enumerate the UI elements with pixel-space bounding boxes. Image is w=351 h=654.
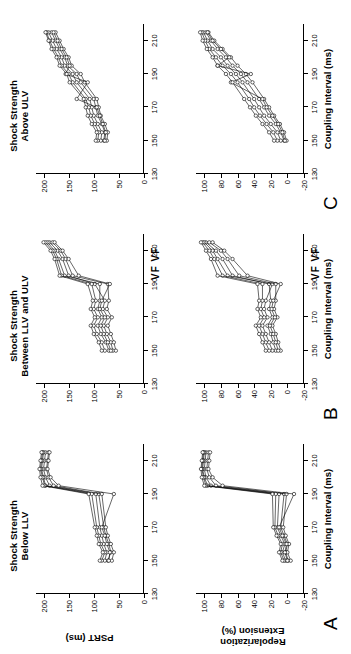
data-point-marker (208, 459, 211, 462)
data-point-marker (283, 551, 286, 554)
data-point-marker (259, 316, 262, 319)
panel-b-title-line2: Between LLV and ULV (19, 222, 30, 430)
data-point-marker (107, 559, 110, 562)
data-point-marker (267, 114, 270, 117)
data-point-marker (77, 274, 80, 277)
x-tick (304, 383, 308, 384)
y-tick (304, 384, 305, 388)
y-tick-label: 40 (250, 390, 259, 398)
y-tick (44, 174, 45, 178)
y-tick-label: 0 (140, 180, 149, 184)
y-tick-label: 0 (283, 180, 292, 184)
y-tick-label: 200 (39, 390, 48, 403)
y-tick-label: 50 (114, 600, 123, 608)
data-point-marker (107, 299, 110, 302)
panel-c-title-line2: Above ULV (19, 12, 30, 220)
y-tick (254, 594, 255, 598)
x-tick-label: 190 (310, 68, 319, 81)
x-tick (144, 350, 148, 351)
x-tick (144, 560, 148, 561)
data-point-marker (58, 64, 61, 67)
data-point-marker (104, 131, 107, 134)
data-point-marker (56, 39, 59, 42)
plot-a-bottom: -20020406080100130150170190210 (196, 444, 304, 594)
y-tick (238, 384, 239, 388)
panel-a-title-line2: Below LLV (19, 432, 30, 640)
data-point-marker (272, 139, 275, 142)
y-tick-label: 0 (140, 390, 149, 394)
data-point-marker (265, 106, 268, 109)
data-point-marker (264, 299, 267, 302)
data-point-marker (283, 139, 286, 142)
data-point-marker (249, 72, 252, 75)
data-point-marker (86, 282, 89, 285)
data-point-marker (101, 122, 104, 125)
data-point-marker (267, 349, 270, 352)
y-tick (304, 174, 305, 178)
data-point-marker (40, 451, 43, 454)
data-point-marker (106, 324, 109, 327)
panel-a-title: Shock Strength Below LLV (8, 432, 30, 640)
y-tick (221, 594, 222, 598)
data-point-marker (256, 307, 259, 310)
data-point-marker (199, 467, 202, 470)
data-point-marker (257, 106, 260, 109)
data-point-marker (90, 122, 93, 125)
data-point-marker (114, 349, 117, 352)
data-point-marker (281, 131, 284, 134)
data-point-marker (58, 274, 61, 277)
data-point-marker (216, 274, 219, 277)
data-point-marker (98, 307, 101, 310)
data-point-marker (46, 467, 49, 470)
data-point-marker (109, 332, 112, 335)
data-point-marker (79, 81, 82, 84)
data-point-marker (226, 257, 229, 260)
panel-a: Shock Strength Below LLV 050100150200130… (0, 432, 351, 640)
data-point-marker (279, 282, 282, 285)
data-point-marker (211, 47, 214, 50)
data-point-marker (208, 476, 211, 479)
y-tick (287, 594, 288, 598)
x-tick-label: 130 (150, 588, 159, 601)
x-tick-label: 130 (150, 378, 159, 391)
data-point-marker (47, 39, 50, 42)
y-tick-label: 100 (200, 180, 209, 193)
data-point-marker (211, 56, 214, 59)
x-tick-label: 210 (150, 34, 159, 47)
y-tick (271, 594, 272, 598)
y-tick (119, 174, 120, 178)
y-tick (44, 594, 45, 598)
data-point-marker (86, 114, 89, 117)
data-point-marker (106, 341, 109, 344)
x-tick (304, 40, 308, 41)
data-point-marker (92, 332, 95, 335)
y-tick-label: 200 (39, 600, 48, 613)
y-axis-title-repol-line2: Extension (%) (208, 626, 298, 637)
figure-rotator: Shock Strength Below LLV 050100150200130… (0, 0, 351, 654)
data-point-marker (211, 249, 214, 252)
data-point-marker (281, 534, 284, 537)
data-point-marker (60, 47, 63, 50)
data-point-marker (198, 31, 201, 34)
y-tick-label: 20 (266, 600, 275, 608)
x-tick-label: 150 (150, 344, 159, 357)
data-point-marker (94, 139, 97, 142)
data-point-marker (75, 81, 78, 84)
data-point-marker (88, 97, 91, 100)
data-point-marker (264, 349, 267, 352)
data-point-marker (216, 64, 219, 67)
data-point-marker (248, 106, 251, 109)
data-point-marker (252, 106, 255, 109)
data-point-marker (203, 484, 206, 487)
x-tick (304, 460, 308, 461)
data-point-marker (271, 349, 274, 352)
plot-c-bottom: -20020406080100130150170190210 (196, 24, 304, 174)
data-point-marker (200, 459, 203, 462)
data-point-marker (231, 81, 234, 84)
data-point-marker (267, 341, 270, 344)
data-point-marker (266, 316, 269, 319)
data-point-marker (216, 257, 219, 260)
data-point-marker (53, 241, 56, 244)
data-point-marker (99, 324, 102, 327)
data-point-marker (103, 139, 106, 142)
